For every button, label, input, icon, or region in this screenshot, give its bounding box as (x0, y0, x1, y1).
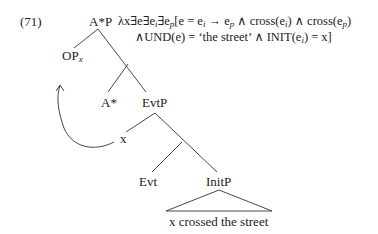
node-op-label: OP (62, 48, 79, 63)
example-number: (71) (20, 15, 42, 29)
node-root-astarp: A*P (89, 15, 112, 29)
node-op-x: OPx (62, 49, 83, 63)
node-initp-content: x crossed the street (169, 215, 268, 229)
node-evtp: EvtP (142, 96, 167, 110)
formula-lambda: λx∃e∃e (118, 14, 155, 28)
node-x-trace: x (120, 132, 127, 146)
semantic-formula-line2: ∧UND(e) = ‘the street’ ∧ INIT(ei) = x] (135, 30, 332, 45)
node-op-subscript: x (79, 54, 83, 64)
node-evt: Evt (139, 175, 157, 189)
node-a-star: A* (101, 96, 117, 110)
node-initp: InitP (206, 175, 231, 189)
semantic-formula-line1: λx∃e∃ei∃ep[e = ei → ep ∧ cross(ei) ∧ cro… (118, 14, 351, 29)
